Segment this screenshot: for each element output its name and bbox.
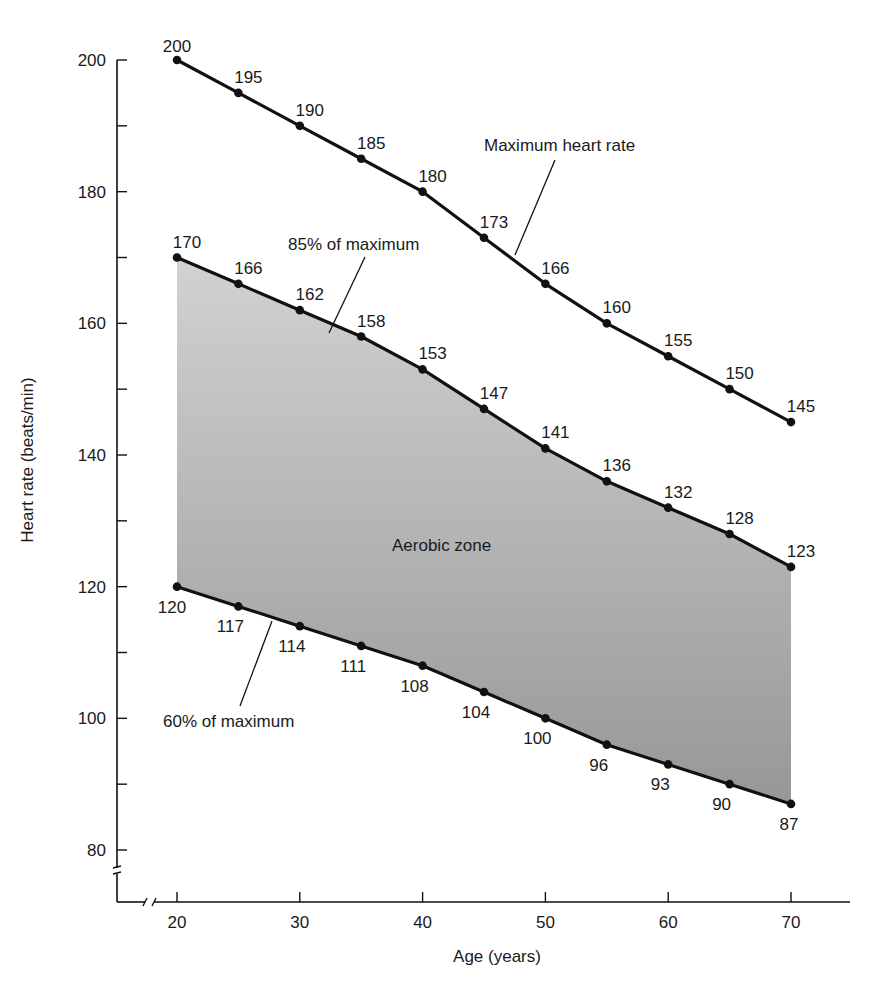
data-point-marker: [234, 89, 243, 98]
y-axis-break-mark: [113, 872, 121, 874]
x-tick-label: 70: [782, 913, 801, 932]
leader-60-percent: [240, 621, 272, 706]
y-tick-label: 120: [78, 578, 106, 597]
annotation-85-percent: 85% of maximum: [288, 235, 419, 254]
data-value-label: 93: [651, 775, 670, 794]
data-point-marker: [173, 582, 182, 591]
annotation-aerobic-zone: Aerobic zone: [392, 536, 491, 555]
data-value-label: 190: [296, 101, 324, 120]
data-point-marker: [234, 602, 243, 611]
data-value-label: 100: [523, 729, 551, 748]
data-point-marker: [357, 642, 366, 651]
data-value-label: 162: [296, 285, 324, 304]
data-point-marker: [418, 661, 427, 670]
data-value-label: 128: [725, 509, 753, 528]
data-value-label: 111: [340, 657, 366, 676]
data-point-marker: [296, 306, 305, 315]
data-point-marker: [357, 154, 366, 163]
y-tick-label: 160: [78, 314, 106, 333]
data-value-label: 104: [462, 703, 490, 722]
data-point-marker: [173, 56, 182, 65]
data-value-label: 117: [217, 617, 244, 636]
y-tick-label: 180: [78, 183, 106, 202]
data-value-label: 180: [418, 167, 446, 186]
data-point-marker: [787, 800, 796, 809]
data-value-label: 158: [357, 312, 385, 331]
x-tick-label: 60: [659, 913, 678, 932]
data-point-marker: [173, 253, 182, 262]
data-point-marker: [725, 385, 734, 394]
data-value-label: 195: [234, 68, 262, 87]
y-tick-label: 200: [78, 51, 106, 70]
data-value-label: 136: [603, 456, 631, 475]
data-point-marker: [541, 444, 550, 453]
data-value-label: 166: [234, 259, 262, 278]
data-point-marker: [234, 280, 243, 289]
data-point-marker: [725, 780, 734, 789]
data-point-marker: [603, 477, 612, 486]
data-point-marker: [541, 714, 550, 723]
data-value-label: 114: [278, 637, 305, 656]
data-point-marker: [603, 319, 612, 328]
data-value-label: 141: [541, 423, 569, 442]
data-point-marker: [664, 352, 673, 361]
data-point-marker: [418, 365, 427, 374]
data-point-marker: [603, 740, 612, 749]
y-tick-label: 80: [87, 841, 106, 860]
data-value-label: 173: [480, 213, 508, 232]
data-value-label: 132: [664, 483, 692, 502]
data-value-label: 185: [357, 134, 385, 153]
leader-max-heart-rate: [515, 160, 555, 255]
x-tick-label: 20: [168, 913, 187, 932]
data-point-marker: [357, 332, 366, 341]
chart-canvas: 80100120140160180200203040506070 2001951…: [0, 0, 885, 992]
y-tick-label: 140: [78, 446, 106, 465]
x-tick-label: 40: [413, 913, 432, 932]
data-value-label: 166: [541, 259, 569, 278]
annotation-60-percent: 60% of maximum: [163, 712, 294, 731]
data-value-label: 150: [725, 364, 753, 383]
y-axis-title: Heart rate (beats/min): [18, 377, 37, 542]
data-point-marker: [296, 622, 305, 631]
data-value-label: 145: [787, 397, 815, 416]
data-point-marker: [480, 405, 489, 414]
data-value-label: 90: [712, 795, 731, 814]
x-tick-label: 50: [536, 913, 555, 932]
y-tick-label: 100: [78, 709, 106, 728]
data-value-label: 170: [173, 233, 201, 252]
data-point-marker: [664, 760, 673, 769]
data-value-label: 160: [603, 298, 631, 317]
annotation-max-heart-rate: Maximum heart rate: [484, 136, 635, 155]
data-value-label: 120: [158, 598, 186, 617]
data-point-marker: [725, 530, 734, 539]
data-point-marker: [418, 187, 427, 196]
data-point-marker: [787, 418, 796, 427]
data-point-marker: [480, 233, 489, 242]
x-tick-label: 30: [290, 913, 309, 932]
data-value-label: 108: [400, 677, 428, 696]
data-value-label: 147: [480, 384, 508, 403]
data-value-label: 155: [664, 331, 692, 350]
data-value-label: 96: [589, 756, 608, 775]
x-axis-title: Age (years): [453, 947, 541, 966]
data-point-marker: [480, 688, 489, 697]
data-point-marker: [541, 280, 550, 289]
data-value-label: 153: [418, 344, 446, 363]
data-point-marker: [664, 503, 673, 512]
data-value-label: 123: [787, 542, 815, 561]
heart-rate-chart: 80100120140160180200203040506070 2001951…: [0, 0, 885, 992]
data-value-label: 200: [163, 37, 191, 56]
data-point-marker: [296, 122, 305, 131]
data-point-marker: [787, 563, 796, 572]
data-value-label: 87: [780, 815, 799, 834]
y-axis-break-mark: [113, 866, 121, 868]
